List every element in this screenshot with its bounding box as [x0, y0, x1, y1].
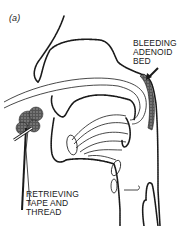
palate-outline — [51, 95, 135, 120]
anatomical-diagram: (a) BLEEDING ADENOID BED RETRIEVING TAPE… — [0, 0, 193, 226]
larynx — [146, 183, 158, 226]
nose-contour — [34, 16, 64, 82]
adenoid-pack — [140, 74, 154, 130]
panel-label: (a) — [9, 14, 20, 23]
epiglottis — [122, 118, 130, 147]
retrieving-tape-label: RETRIEVING TAPE AND THREAD — [26, 190, 79, 217]
larynx-front — [143, 200, 146, 226]
bleeding-adenoid-bed-label: BLEEDING ADENOID BED — [133, 39, 177, 66]
